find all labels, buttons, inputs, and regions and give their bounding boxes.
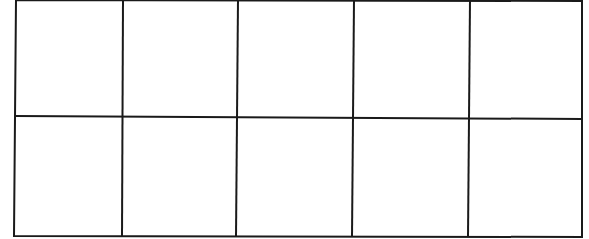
grid-col-divider-1 xyxy=(122,0,123,236)
grid-col-divider-4 xyxy=(468,0,470,237)
grid-row-divider xyxy=(15,116,582,119)
grid-diagram xyxy=(0,0,589,239)
grid-lines xyxy=(14,0,582,237)
grid-col-divider-2 xyxy=(236,0,238,237)
grid-col-divider-3 xyxy=(352,0,354,237)
